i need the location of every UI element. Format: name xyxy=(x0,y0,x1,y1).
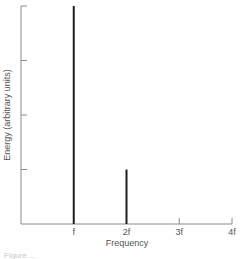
y-axis-label: Energy (arbitrary units) xyxy=(2,69,12,161)
x-tick-label-2f: 2f xyxy=(123,227,131,237)
y-ticks xyxy=(21,6,27,170)
bars xyxy=(74,6,127,224)
x-ticks: f2f3f4f xyxy=(72,218,236,237)
x-tick-label-4f: 4f xyxy=(228,227,236,237)
figure-caption: Figure ... xyxy=(4,251,36,259)
energy-frequency-chart: f2f3f4f Frequency Energy (arbitrary unit… xyxy=(0,0,246,259)
x-tick-label-f: f xyxy=(72,227,75,237)
x-tick-label-3f: 3f xyxy=(175,227,183,237)
x-axis-label: Frequency xyxy=(106,238,149,248)
